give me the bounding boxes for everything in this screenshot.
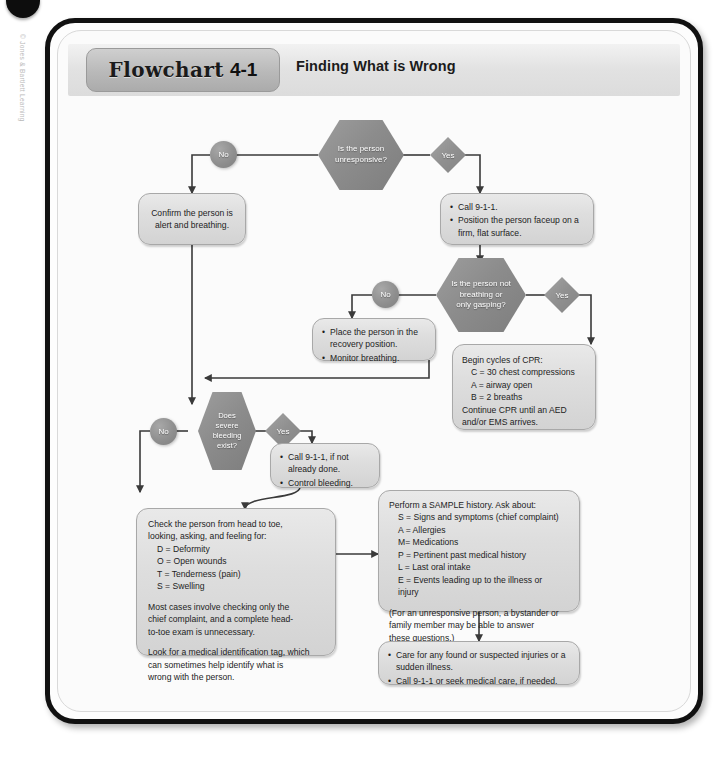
flowchart-tab-number: 4-1 [230,59,257,81]
decision-not-breathing-line2: breathing or [460,290,503,299]
page-root: © Jones & Bartlett Learning Flowchart 4-… [0,0,720,757]
box-sample-history[interactable]: Perform a SAMPLE history. Ask about: S =… [378,490,580,612]
box-head-to-toe-line8: chief complaint, and a complete head- [148,613,324,625]
box-bleeding-care-bullet-2: Control bleeding. [280,477,370,489]
box-head-to-toe[interactable]: Check the person from head to toe, looki… [136,508,336,656]
box-sample-gap [389,599,569,607]
decision-severe-bleeding-line2: severe [216,421,239,430]
decision-not-breathing-line3: only gasping? [456,300,505,309]
yes-label-1: Yes [441,151,454,160]
box-head-to-toe-line5: T = Tenderness (pain) [148,568,324,580]
decision-unresponsive-line2: unresponsive? [335,155,387,164]
box-head-to-toe-line11: can sometimes help identify what is [148,659,324,671]
box-sample-line8: injury [389,586,569,598]
box-final-care-bullet-2: Call 9-1-1 or seek medical care, if need… [388,675,570,687]
box-cpr-line2: C = 30 chest compressions [462,366,586,378]
box-head-to-toe-line12: wrong with the person. [148,671,324,683]
box-confirm-alert-line2: alert and breathing. [151,219,233,231]
box-head-to-toe-gap-2 [148,638,324,646]
box-head-to-toe-line7: Most cases involve checking only the [148,601,324,613]
box-sample-line5: P = Pertinent past medical history [389,549,569,561]
page-title: Finding What is Wrong [296,58,456,74]
box-cpr[interactable]: Begin cycles of CPR: C = 30 chest compre… [452,344,596,430]
box-call-position-bullet-2: Position the person faceup on a firm, fl… [450,214,584,239]
side-credit-text: © Jones & Bartlett Learning [19,34,26,144]
box-recovery-position[interactable]: Place the person in the recovery positio… [312,318,436,361]
no-label-3: No [158,427,168,436]
box-bleeding-care-bullet-1: Call 9-1-1, if not already done. [280,451,370,476]
binder-hole-icon [6,0,40,18]
box-cpr-line3: A = airway open [462,379,586,391]
decision-severe-bleeding-line1: Does [218,411,236,420]
box-head-to-toe-line9: to-toe exam is unnecessary. [148,626,324,638]
yes-label-2: Yes [555,291,568,300]
no-label-1: No [218,150,228,159]
no-label-2: No [380,290,390,299]
box-confirm-alert[interactable]: Confirm the person is alert and breathin… [138,193,246,245]
box-cpr-line5: Continue CPR until an AED [462,404,586,416]
box-cpr-line4: B = 2 breaths [462,391,586,403]
yes-label-3: Yes [276,427,289,436]
box-sample-line3: A = Allergies [389,524,569,536]
decision-unresponsive-no-label: No [210,141,237,168]
box-head-to-toe-line1: Check the person from head to toe, [148,518,324,530]
box-final-care[interactable]: Care for any found or suspected injuries… [378,641,580,685]
box-head-to-toe-line4: O = Open wounds [148,555,324,567]
box-sample-line4: M= Medications [389,536,569,548]
box-head-to-toe-line10: Look for a medical identification tag, w… [148,646,324,658]
box-sample-line6: L = Last oral intake [389,561,569,573]
decision-severe-bleeding-line3: bleeding [213,431,242,440]
box-head-to-toe-line6: S = Swelling [148,580,324,592]
box-sample-line2: S = Signs and symptoms (chief complaint) [389,511,569,523]
box-sample-line1: Perform a SAMPLE history. Ask about: [389,499,569,511]
flowchart-tab-word: Flowchart [109,58,224,82]
decision-not-breathing-line1: Is the person not [451,279,511,288]
box-head-to-toe-line2: looking, asking, and feeling for: [148,530,324,542]
decision-severe-bleeding-line4: exist? [217,441,237,450]
box-recovery-bullet-2: Monitor breathing. [322,352,426,364]
box-cpr-line1: Begin cycles of CPR: [462,354,586,366]
box-recovery-bullet-1: Place the person in the recovery positio… [322,326,426,351]
box-head-to-toe-line3: D = Deformity [148,543,324,555]
box-bleeding-care[interactable]: Call 9-1-1, if not already done. Control… [270,443,380,488]
box-call-position[interactable]: Call 9-1-1. Position the person faceup o… [440,193,594,245]
box-cpr-line6: and/or EMS arrives. [462,416,586,428]
box-sample-line9: (For an unresponsive person, a bystander… [389,607,569,619]
decision-not-breathing-no-label: No [372,281,399,308]
box-call-position-bullet-1: Call 9-1-1. [450,201,584,213]
decision-severe-bleeding-no-label: No [150,418,177,445]
box-sample-line7: E = Events leading up to the illness or [389,574,569,586]
flowchart-tab: Flowchart 4-1 [86,48,280,92]
box-head-to-toe-gap-1 [148,593,324,601]
box-sample-line10: family member may be able to answer [389,619,569,631]
box-final-care-bullet-1: Care for any found or suspected injuries… [388,649,570,674]
decision-unresponsive-line1: Is the person [338,144,384,153]
box-confirm-alert-line1: Confirm the person is [151,207,233,219]
